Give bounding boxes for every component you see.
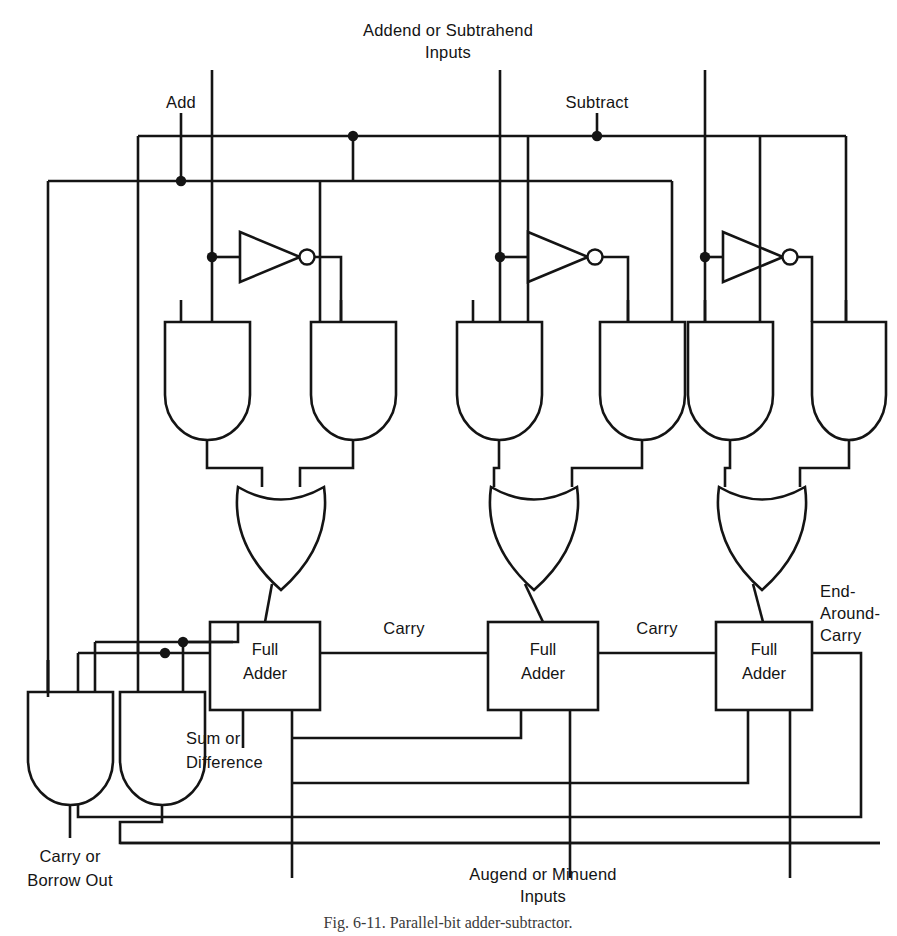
and-gate-5: [688, 322, 773, 440]
full-adder-3-box: [716, 622, 812, 710]
or-gate-3: [718, 487, 806, 590]
and-gate-bottom-2: [120, 692, 205, 805]
inverter-2-bubble: [588, 250, 603, 265]
or-gate-1: [237, 487, 325, 590]
junction-inv3-input: [700, 252, 710, 262]
junction-inv1-input: [207, 252, 217, 262]
and-gate-3: [457, 322, 542, 440]
wire-and3-out: [494, 440, 499, 487]
junction-subtract-bus: [592, 131, 602, 141]
wire-inv2-out: [603, 257, 629, 322]
wire-or1-out: [265, 584, 272, 622]
wire-bottom-and2-out: [120, 805, 880, 843]
and-gate-4: [600, 322, 685, 440]
wire-inv1-out: [315, 257, 342, 322]
junction-bottom-and-feed: [178, 637, 188, 647]
full-adder-1-box: [210, 622, 320, 710]
and-gate-6: [812, 322, 886, 440]
wire-fa2-sum: [292, 710, 521, 738]
and-gate-bottom-1: [28, 692, 113, 805]
junction-inv2-input: [495, 252, 505, 262]
inverter-2-triangle: [528, 232, 588, 282]
wire-and5-out: [725, 440, 730, 487]
inverter-1-bubble: [300, 250, 315, 265]
wire-and6-out: [800, 440, 849, 487]
wire-and2-out: [300, 440, 353, 487]
or-gate-2: [490, 487, 578, 590]
inverter-1-triangle: [240, 232, 300, 282]
junction-carryin-fa1: [160, 648, 170, 658]
inverter-3-triangle: [723, 232, 783, 282]
junction-add-bus: [176, 176, 186, 186]
and-gate-2: [311, 322, 396, 440]
circuit-diagram: [0, 0, 897, 936]
and-gate-1: [165, 322, 250, 440]
inverter-3-bubble: [783, 250, 798, 265]
wire-inv3-out: [798, 257, 813, 322]
figure-root: Addend or Subtrahend Inputs Add Subtract…: [0, 0, 897, 936]
wire-and1-out: [207, 440, 262, 487]
wire-and4-out: [572, 440, 642, 487]
full-adder-2-box: [488, 622, 598, 710]
